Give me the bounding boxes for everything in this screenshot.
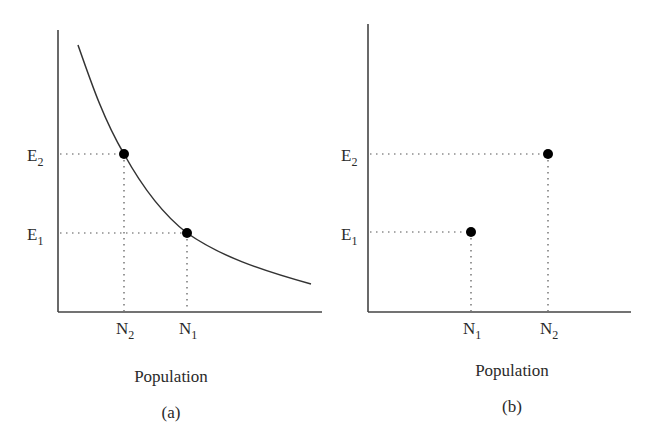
x-tick-n2: N2 bbox=[540, 319, 558, 342]
point-n1-e1 bbox=[182, 228, 192, 238]
x-tick-n2: N2 bbox=[116, 319, 134, 342]
y-tick-e2: E2 bbox=[27, 146, 43, 169]
panel-b: E2 E1 N1 N2 Population (b) bbox=[341, 24, 631, 416]
y-tick-e2: E2 bbox=[341, 146, 357, 169]
x-axis-label: Population bbox=[134, 367, 208, 386]
point-n1-e1 bbox=[466, 227, 476, 237]
decreasing-curve bbox=[78, 45, 311, 284]
x-tick-n1: N1 bbox=[463, 319, 481, 342]
x-tick-n1: N1 bbox=[179, 319, 197, 342]
point-n2-e2 bbox=[543, 149, 553, 159]
panel-caption: (b) bbox=[502, 397, 522, 416]
x-axis-label: Population bbox=[475, 361, 549, 380]
y-tick-e1: E1 bbox=[341, 225, 357, 248]
point-n2-e2 bbox=[119, 149, 129, 159]
y-tick-e1: E1 bbox=[27, 225, 43, 248]
panel-a: E2 E1 N2 N1 Population (a) bbox=[27, 30, 322, 422]
panel-caption: (a) bbox=[162, 403, 181, 422]
